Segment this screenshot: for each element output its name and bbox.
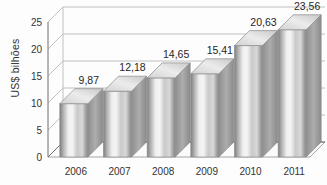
bar-side-face (219, 59, 234, 157)
bar-chart: US$ bilhões (0, 0, 327, 185)
bar-side-face (306, 15, 321, 157)
bar-value-label-2009: 15,41 (207, 44, 233, 56)
bar-2011[interactable] (278, 15, 321, 157)
y-tick-label: 0 (36, 152, 42, 163)
y-tick-label: 10 (31, 98, 43, 109)
bar-value-label-2007: 12,18 (119, 61, 145, 73)
bar-front-face (278, 30, 306, 157)
gridline-25 (48, 7, 325, 22)
bar-2007[interactable] (104, 76, 147, 157)
bar-value-label-2011: 23,56 (294, 0, 320, 12)
x-tick-label-2006: 2006 (65, 166, 88, 177)
x-tick-label-2008: 2008 (152, 166, 175, 177)
x-tick-label-2010: 2010 (239, 166, 262, 177)
bar-value-label-2010: 20,63 (250, 16, 276, 28)
bar-front-face (60, 104, 88, 157)
bar-2010[interactable] (235, 31, 278, 157)
bar-value-label-2006: 9,87 (79, 74, 100, 86)
bar-front-face (104, 91, 132, 157)
bar-front-face (235, 46, 263, 157)
bar-value-label-2008: 14,65 (163, 48, 189, 60)
x-tick-label-2009: 2009 (196, 166, 219, 177)
bar-side-face (175, 63, 190, 157)
y-tick-label: 20 (31, 44, 43, 55)
y-tick-label: 25 (31, 17, 43, 28)
bar-side-face (263, 31, 278, 157)
x-tick-label-2007: 2007 (108, 166, 131, 177)
bar-2008[interactable] (147, 63, 190, 157)
bar-2009[interactable] (191, 59, 234, 157)
y-tick-label: 15 (31, 71, 43, 82)
x-tick-label-2011: 2011 (283, 166, 305, 177)
bar-front-face (191, 74, 219, 157)
chart-plot-area: 051015202523,56201120,63201015,41200914,… (0, 0, 327, 185)
bar-front-face (147, 78, 175, 157)
bar-2006[interactable] (60, 89, 103, 157)
y-tick-label: 5 (36, 125, 42, 136)
